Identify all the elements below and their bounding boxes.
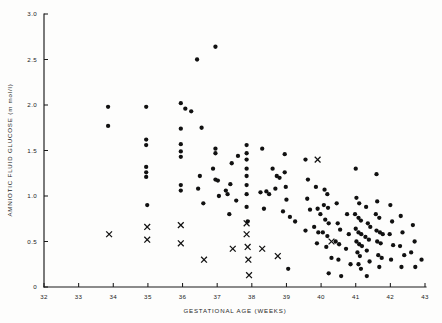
data-point-dot bbox=[348, 262, 352, 266]
data-point-dot bbox=[398, 244, 402, 248]
data-point-cross bbox=[315, 157, 321, 163]
data-point-dot bbox=[355, 250, 359, 254]
data-point-dot bbox=[367, 259, 371, 263]
y-axis-title: AMNIOTIC FLUID GLUCOSE (m mol/l) bbox=[6, 83, 13, 216]
data-point-cross bbox=[245, 244, 251, 250]
data-point-cross bbox=[244, 231, 250, 237]
y-tick-label: 2.0 bbox=[27, 101, 37, 108]
data-point-dot bbox=[409, 250, 413, 254]
data-point-dot bbox=[216, 178, 220, 182]
data-point-dot bbox=[145, 203, 149, 207]
data-point-dot bbox=[284, 197, 288, 201]
data-point-dot bbox=[144, 170, 148, 174]
data-point-dot bbox=[381, 232, 385, 236]
data-point-dot bbox=[234, 198, 238, 202]
data-point-dot bbox=[335, 201, 339, 205]
data-point-dot bbox=[380, 256, 384, 260]
data-point-dot bbox=[281, 209, 285, 213]
data-point-dot bbox=[179, 155, 183, 159]
data-point-dot bbox=[196, 187, 200, 191]
data-point-dot bbox=[324, 245, 328, 249]
data-point-dot bbox=[273, 187, 277, 191]
data-point-dot bbox=[244, 143, 248, 147]
data-point-dot bbox=[388, 232, 392, 236]
data-point-dot bbox=[365, 274, 369, 278]
data-point-dot bbox=[189, 109, 193, 113]
data-point-dot bbox=[258, 190, 262, 194]
data-point-dot bbox=[374, 212, 378, 216]
data-point-dot bbox=[283, 152, 287, 156]
data-point-dot bbox=[244, 174, 248, 178]
y-tick-label: 1.5 bbox=[27, 147, 37, 154]
data-point-dot bbox=[284, 185, 288, 189]
data-point-dot bbox=[144, 137, 148, 141]
x-tick-label: 36 bbox=[179, 293, 187, 300]
data-point-dot bbox=[333, 239, 337, 243]
data-point-dot bbox=[359, 267, 363, 271]
data-point-dot bbox=[354, 167, 358, 171]
data-point-dot bbox=[321, 230, 325, 234]
data-point-dot bbox=[199, 126, 203, 130]
data-point-dot bbox=[354, 227, 358, 231]
data-point-dot bbox=[213, 147, 217, 151]
x-tick-label: 32 bbox=[40, 293, 48, 300]
data-point-dot bbox=[244, 183, 248, 187]
data-point-dot bbox=[365, 248, 369, 252]
data-point-dot bbox=[368, 225, 372, 229]
data-point-dot bbox=[288, 215, 292, 219]
data-point-dot bbox=[327, 221, 331, 225]
data-point-cross bbox=[144, 237, 150, 243]
data-point-dot bbox=[337, 242, 341, 246]
data-point-dot bbox=[144, 165, 148, 169]
y-tick-label: 0 bbox=[33, 283, 37, 290]
data-point-dot bbox=[325, 192, 329, 196]
data-point-dot bbox=[314, 185, 318, 189]
data-point-dot bbox=[376, 253, 380, 257]
data-point-dot bbox=[399, 265, 403, 269]
data-point-dot bbox=[375, 199, 379, 203]
data-point-dot bbox=[227, 212, 231, 216]
data-point-dot bbox=[198, 174, 202, 178]
data-point-cross bbox=[144, 224, 150, 230]
data-point-dot bbox=[211, 167, 215, 171]
data-point-dot bbox=[201, 201, 205, 205]
data-point-cross bbox=[259, 246, 265, 252]
series-dot-markers bbox=[106, 45, 424, 279]
data-point-dot bbox=[244, 151, 248, 155]
data-point-dot bbox=[228, 182, 232, 186]
x-tick-label: 40 bbox=[317, 293, 325, 300]
data-point-dot bbox=[213, 151, 217, 155]
data-point-dot bbox=[399, 214, 403, 218]
data-point-dot bbox=[327, 271, 331, 275]
data-point-dot bbox=[283, 170, 287, 174]
data-point-dot bbox=[360, 244, 364, 248]
data-point-dot bbox=[179, 149, 183, 153]
data-point-dot bbox=[354, 196, 358, 200]
data-point-dot bbox=[179, 101, 183, 105]
data-point-dot bbox=[217, 194, 221, 198]
data-point-dot bbox=[419, 258, 423, 262]
data-point-cross bbox=[178, 240, 184, 246]
data-point-dot bbox=[322, 203, 326, 207]
data-point-dot bbox=[303, 228, 307, 232]
data-point-dot bbox=[179, 188, 183, 192]
data-point-dot bbox=[262, 207, 266, 211]
data-point-dot bbox=[338, 228, 342, 232]
data-point-dot bbox=[412, 239, 416, 243]
data-point-dot bbox=[358, 254, 362, 258]
data-point-dot bbox=[377, 265, 381, 269]
plot-canvas: 323334353637383940414243 00.51.01.52.02.… bbox=[0, 0, 442, 323]
data-point-dot bbox=[244, 205, 248, 209]
y-axis-ticks: 00.51.01.52.02.53.0 bbox=[27, 10, 48, 290]
data-point-dot bbox=[106, 124, 110, 128]
data-point-dot bbox=[347, 232, 351, 236]
data-point-cross bbox=[275, 253, 281, 259]
data-point-dot bbox=[318, 212, 322, 216]
data-point-dot bbox=[325, 234, 329, 238]
x-tick-label: 42 bbox=[387, 293, 395, 300]
data-point-dot bbox=[230, 161, 234, 165]
data-point-dot bbox=[244, 157, 248, 161]
data-point-dot bbox=[323, 218, 327, 222]
data-point-dot bbox=[179, 183, 183, 187]
data-point-dot bbox=[356, 262, 360, 266]
